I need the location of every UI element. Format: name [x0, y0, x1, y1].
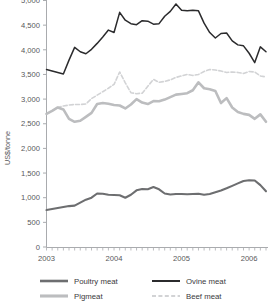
y-tick-label: 500 — [27, 218, 40, 227]
x-tick-label: 2006 — [241, 254, 258, 263]
y-tick-label: 1,500 — [21, 169, 40, 178]
y-tick-label: 4,500 — [21, 21, 40, 30]
series-line-pigmeat — [47, 82, 267, 121]
y-tick-label: 4,000 — [21, 46, 40, 55]
y-axis-title: US$/tonne — [3, 131, 12, 165]
series-line-poultry-meat — [47, 180, 267, 210]
legend-label-pigmeat: Pigmeat — [74, 292, 103, 301]
x-axis-tick-labels: 2003200420052006 — [38, 254, 258, 263]
legend-label-poultry-meat: Poultry meat — [74, 277, 119, 286]
y-axis-tick-labels: 05001,0001,5002,0002,5003,0003,5004,0004… — [21, 0, 40, 252]
data-series-group — [47, 4, 267, 210]
y-tick-label: 1,000 — [21, 193, 40, 202]
y-tick-label: 2,500 — [21, 119, 40, 128]
y-tick-label: 3,000 — [21, 95, 40, 104]
line-chart: 05001,0001,5002,0002,5003,0003,5004,0004… — [0, 0, 271, 303]
y-tick-label: 5,000 — [21, 0, 40, 5]
legend-label-beef-meat: Beef meat — [186, 292, 222, 301]
chart-canvas: 05001,0001,5002,0002,5003,0003,5004,0004… — [0, 0, 271, 303]
x-tick-label: 2003 — [38, 254, 55, 263]
chart-legend: Poultry meatOvine meatPigmeatBeef meat — [40, 277, 227, 301]
y-tick-label: 0 — [36, 243, 40, 252]
series-line-ovine-meat — [47, 4, 267, 74]
legend-label-ovine-meat: Ovine meat — [186, 277, 227, 286]
x-tick-label: 2004 — [106, 254, 123, 263]
y-tick-label: 3,500 — [21, 70, 40, 79]
x-tick-label: 2005 — [173, 254, 190, 263]
y-tick-label: 2,000 — [21, 144, 40, 153]
